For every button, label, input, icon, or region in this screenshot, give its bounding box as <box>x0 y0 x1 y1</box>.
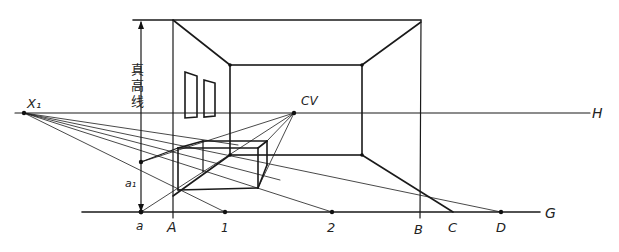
ray-x1-to-D <box>24 113 501 212</box>
point-D-dot <box>499 210 503 214</box>
floor-edge-right <box>362 155 453 212</box>
back-wall-br-dot <box>360 153 364 157</box>
perspective-diagram: X₁ CV H G 真 高 线 a₁ a A 1 2 B C D <box>0 0 619 252</box>
a-dot <box>139 210 144 215</box>
point-1-dot <box>223 210 227 214</box>
arrow-up-icon <box>138 21 144 29</box>
box-top-left-edge <box>178 141 203 148</box>
label-A: A <box>166 219 177 235</box>
box-top-right-edge <box>258 141 267 148</box>
label-a1: a₁ <box>125 177 136 190</box>
diagram-svg: X₁ CV H G 真 高 线 a₁ a A 1 2 B C D <box>0 0 619 252</box>
label-D: D <box>496 220 506 235</box>
wall-edge-B <box>420 20 421 218</box>
label-g: G <box>545 205 556 221</box>
label-true-height-3: 线 <box>131 94 144 109</box>
box-bottom-front-edge <box>178 188 258 190</box>
label-1: 1 <box>221 221 229 235</box>
label-B: B <box>414 222 423 237</box>
label-cv: CV <box>301 94 318 108</box>
ray-a-to-cv <box>141 113 294 212</box>
back-wall-bl-dot <box>228 153 232 157</box>
label-C: C <box>448 220 458 235</box>
cv-dot <box>292 111 296 115</box>
label-2: 2 <box>327 220 335 235</box>
x1-dot <box>22 111 26 115</box>
label-true-height-2: 高 <box>131 78 144 93</box>
label-true-height-1: 真 <box>131 62 144 77</box>
point-2-dot <box>330 210 334 214</box>
back-wall-tr-dot <box>360 63 364 67</box>
ceiling-edge-right <box>362 22 421 65</box>
a1-dot <box>139 160 143 164</box>
window-1 <box>185 72 197 118</box>
label-x1: X₁ <box>26 96 41 111</box>
label-h: H <box>592 105 603 121</box>
label-a: a <box>136 219 143 233</box>
back-wall-tl-dot <box>228 63 232 67</box>
window-2 <box>204 80 215 117</box>
ceiling-edge-left <box>173 20 230 65</box>
